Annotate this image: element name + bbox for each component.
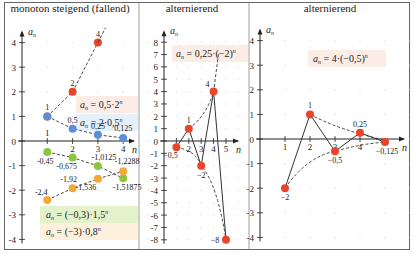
panel-title: alternierend: [304, 2, 357, 14]
y-tick-label: -4: [247, 233, 255, 243]
y-axis-label: an: [170, 25, 178, 37]
y-axis-arrow-icon: [258, 29, 263, 35]
data-label: 1: [187, 116, 191, 125]
data-label: −0,5: [328, 156, 343, 165]
figure: monoton steigend (fallend)ann-4-3-2-1012…: [0, 0, 414, 254]
x-axis-label: n: [132, 144, 137, 155]
data-label: 0,25: [353, 120, 367, 129]
data-point: [119, 174, 127, 182]
y-tick-label: 3: [154, 99, 159, 109]
data-point: [94, 175, 102, 183]
data-point: [356, 129, 364, 137]
data-point: [306, 110, 314, 118]
data-label: 2: [71, 79, 75, 88]
x-axis-label: n: [402, 142, 407, 153]
y-tick-label: -1: [247, 159, 255, 169]
svg-text:2: 2: [308, 142, 313, 152]
svg-text:4: 4: [211, 144, 216, 154]
formula-text: an = (−3)·0,8n: [46, 226, 101, 238]
y-tick-label: 8: [154, 38, 159, 48]
formula-text: an = 0,25·(−2)n: [176, 48, 236, 60]
data-label: 0,5: [68, 116, 78, 125]
y-axis-label: an: [266, 24, 274, 36]
x-axis-arrow-icon: [129, 139, 135, 144]
data-label: -0,675: [56, 162, 77, 171]
x-axis-arrow-icon: [399, 137, 405, 142]
y-tick-label: 4: [12, 38, 17, 48]
chart-canvas: monoton steigend (fallend)ann-4-3-2-1012…: [0, 0, 414, 254]
y-tick-label: -2: [9, 186, 17, 196]
x-axis-arrow-icon: [233, 139, 239, 144]
panel-title: monoton steigend (fallend): [10, 2, 129, 15]
y-tick-label: -3: [9, 210, 17, 220]
y-tick-label: 6: [154, 62, 159, 72]
y-tick-label: -2: [151, 161, 159, 171]
svg-text:5: 5: [224, 144, 229, 154]
y-axis-label: an: [28, 26, 36, 38]
data-point: [281, 184, 289, 192]
y-tick-label: 1: [12, 112, 17, 122]
data-label: -1,92: [60, 175, 77, 184]
y-tick-label: -3: [151, 174, 159, 184]
data-label: −0,5: [163, 151, 178, 160]
y-tick-label: -5: [151, 198, 159, 208]
panel-2: alternierendann-8-7-6-5-4-3-2-1012345678…: [151, 2, 249, 245]
svg-text:4: 4: [358, 142, 363, 152]
x-axis-label: n: [236, 144, 241, 155]
data-point: [94, 162, 102, 170]
y-tick-label: 3: [12, 63, 17, 73]
y-tick-label: 0: [250, 135, 255, 145]
y-tick-label: 1: [154, 124, 159, 134]
data-point: [43, 112, 51, 120]
data-label: -2,4: [35, 188, 48, 197]
data-point: [210, 88, 218, 96]
y-tick-label: 1: [250, 110, 255, 120]
y-tick-label: 7: [154, 50, 159, 60]
envelope-curve: [176, 147, 226, 240]
y-tick-label: -7: [151, 223, 159, 233]
svg-text:2: 2: [70, 144, 75, 154]
data-label: −0,125: [376, 147, 399, 156]
data-point: [69, 154, 77, 162]
data-label: 1: [308, 101, 312, 110]
data-point: [94, 131, 102, 139]
data-label: −2: [281, 193, 290, 202]
data-label: -0,45: [37, 157, 54, 166]
data-label: -1,0125: [92, 153, 117, 162]
data-point: [331, 147, 339, 155]
panel-1: monoton steigend (fallend)ann-4-3-2-1012…: [9, 2, 150, 245]
y-tick-label: -8: [151, 235, 159, 245]
envelope-curve: [310, 114, 385, 140]
y-tick-label: 0: [154, 137, 159, 147]
y-tick-label: -3: [247, 208, 255, 218]
data-label: -1,2288: [115, 157, 140, 166]
y-tick-label: -2: [247, 184, 255, 194]
data-label: -1,51875: [113, 183, 142, 192]
y-tick-label: 0: [12, 137, 17, 147]
data-point: [119, 167, 127, 175]
y-tick-label: 2: [250, 85, 255, 95]
data-label: 4: [96, 30, 100, 39]
data-point: [222, 236, 230, 244]
svg-text:1: 1: [283, 142, 288, 152]
svg-text:1: 1: [45, 128, 50, 138]
data-point: [197, 162, 205, 170]
panel-title: alternierend: [166, 2, 219, 14]
y-tick-label: 2: [12, 87, 17, 97]
data-point: [43, 196, 51, 204]
panel-3: alternierendann-4-3-2-1012341234an = 4·(…: [247, 2, 411, 243]
data-label: 4: [206, 80, 210, 89]
y-tick-label: -4: [9, 235, 17, 245]
formula-text: an = 4·(−0,5)n: [313, 53, 368, 65]
data-point: [185, 125, 193, 133]
y-tick-label: -1: [151, 149, 159, 159]
y-tick-label: 4: [250, 36, 255, 46]
data-label: −8: [211, 236, 220, 245]
formula-text: an = (−0,3)·1,5n: [46, 209, 108, 221]
data-point: [119, 134, 127, 142]
y-axis-arrow-icon: [20, 31, 25, 37]
y-tick-label: 3: [250, 61, 255, 71]
data-point: [69, 88, 77, 96]
data-point: [381, 138, 389, 146]
y-tick-label: 4: [154, 87, 159, 97]
